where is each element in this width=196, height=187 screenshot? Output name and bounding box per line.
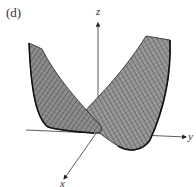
x-axis [64,132,97,179]
panel-label: (d) [6,5,21,21]
x-axis-label: x [60,177,65,187]
surface-left-wing [29,43,102,133]
y-axis-label: y [188,130,193,142]
surface-plot-figure: (d) z y x [0,0,196,187]
surface-plot-canvas [0,0,196,187]
z-axis-label: z [96,5,100,17]
